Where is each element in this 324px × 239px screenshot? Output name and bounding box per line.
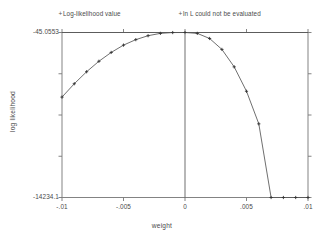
y-axis-title: log likelihood (9, 82, 16, 142)
x-axis-labels: -.01 -.005 0 .005 .01 (0, 0, 324, 239)
x-axis-label-0: -.01 (56, 203, 67, 210)
x-axis-label-1: -.005 (116, 203, 131, 210)
x-axis-label-2: 0 (183, 203, 187, 210)
chart-container: +Log-likelihood value +ln L could not be… (0, 0, 324, 239)
x-axis-label-3: .005 (240, 203, 253, 210)
x-axis-title: weight (0, 222, 324, 229)
x-axis-label-4: .01 (303, 203, 312, 210)
